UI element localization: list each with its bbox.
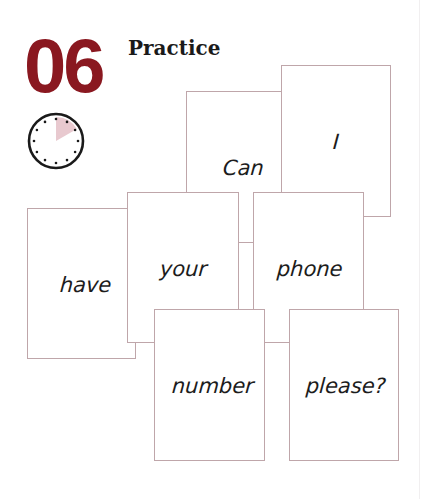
word-card-have[interactable]: have — [27, 208, 136, 359]
page-edge — [419, 0, 420, 499]
clock-icon — [26, 111, 86, 171]
word-card-please[interactable]: please? — [289, 309, 399, 461]
card-word: please? — [305, 374, 387, 398]
card-word: phone — [276, 257, 343, 281]
word-card-number[interactable]: number — [154, 309, 265, 461]
card-word: number — [171, 374, 255, 398]
card-word: have — [59, 273, 112, 297]
section-title: Practice — [128, 36, 220, 60]
card-word: your — [159, 257, 208, 281]
lesson-number: 06 — [24, 26, 103, 106]
card-word: I — [332, 130, 340, 154]
card-word: Can — [222, 156, 265, 180]
